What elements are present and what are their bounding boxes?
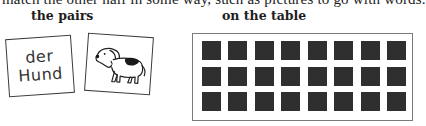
face-down-tile[interactable] xyxy=(387,92,406,111)
face-down-tile[interactable] xyxy=(361,41,380,60)
face-down-tile[interactable] xyxy=(361,67,380,86)
dog-icon xyxy=(89,40,150,90)
word-card-noun: Hund xyxy=(18,64,64,85)
face-down-tile[interactable] xyxy=(255,92,274,111)
face-down-tile[interactable] xyxy=(281,41,300,60)
face-down-tile[interactable] xyxy=(308,67,327,86)
face-down-tile[interactable] xyxy=(281,92,300,111)
face-down-tile[interactable] xyxy=(387,41,406,60)
face-down-tile[interactable] xyxy=(202,67,221,86)
heading-on-the-table: on the table xyxy=(222,8,306,23)
face-down-tile[interactable] xyxy=(334,67,353,86)
memory-table xyxy=(192,33,413,121)
face-down-tile[interactable] xyxy=(387,67,406,86)
face-down-tile[interactable] xyxy=(202,92,221,111)
face-down-tile[interactable] xyxy=(255,67,274,86)
face-down-tile[interactable] xyxy=(334,41,353,60)
face-down-tile[interactable] xyxy=(202,41,221,60)
face-down-tile[interactable] xyxy=(228,67,247,86)
face-down-tile[interactable] xyxy=(308,41,327,60)
face-down-tile[interactable] xyxy=(308,92,327,111)
face-down-tile[interactable] xyxy=(228,92,247,111)
face-down-tile[interactable] xyxy=(228,41,247,60)
face-down-tile[interactable] xyxy=(361,92,380,111)
word-card: der Hund xyxy=(5,35,75,97)
clipped-text-line: match the other half in some way, such a… xyxy=(2,0,414,8)
face-down-tile[interactable] xyxy=(255,41,274,60)
face-down-tile[interactable] xyxy=(281,67,300,86)
face-down-tile[interactable] xyxy=(334,92,353,111)
picture-card xyxy=(84,33,154,95)
heading-the-pairs: the pairs xyxy=(31,8,93,23)
